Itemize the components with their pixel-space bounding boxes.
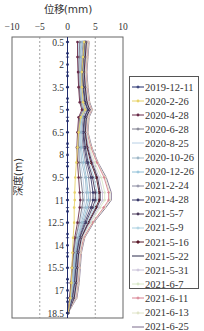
legend-label: 2019-12-11 (145, 82, 194, 93)
y-tick-label: 2 (59, 60, 64, 70)
legend-swatch-icon (132, 139, 144, 147)
legend-item: 2021-4-28 (132, 193, 198, 207)
y-tick-label: 0.5 (52, 38, 64, 48)
x-tick-label: 0 (65, 22, 70, 32)
legend-item: 2021-5-22 (132, 249, 198, 263)
legend-item: 2020-6-28 (132, 122, 198, 136)
legend-label: 2020-6-28 (145, 124, 189, 135)
legend-swatch-icon (132, 252, 144, 260)
legend-label: 2021-6-11 (145, 293, 188, 304)
legend-item: 2021-5-16 (132, 235, 198, 249)
legend-label: 2021-6-25 (145, 321, 189, 331)
legend-item: 2021-6-25 (132, 320, 198, 331)
legend-swatch-icon (132, 280, 144, 288)
y-tick-label: 18.5 (47, 309, 64, 319)
legend-label: 2020-10-26 (145, 152, 194, 163)
legend-swatch-icon (132, 168, 144, 176)
legend-swatch-icon (132, 154, 144, 162)
legend-item: 2021-2-24 (132, 179, 198, 193)
legend-swatch-icon (132, 294, 144, 302)
legend-swatch-icon (132, 309, 144, 317)
legend-swatch-icon (132, 224, 144, 232)
legend-label: 2020-12-26 (145, 166, 194, 177)
legend-swatch-icon (132, 266, 144, 274)
legend-label: 2021-5-16 (145, 237, 189, 248)
y-tick-label: 6.5 (52, 128, 64, 138)
x-axis-ticks: −10−50510 (5, 22, 128, 32)
legend-swatch-icon (132, 210, 144, 218)
y-tick-label: 15.5 (47, 263, 64, 273)
legend-label: 2021-4-28 (145, 194, 189, 205)
legend-label: 2021-6-7 (145, 279, 184, 290)
legend-swatch-icon (132, 111, 144, 119)
legend-swatch-icon (132, 323, 144, 331)
legend-item: 2020-10-26 (132, 150, 198, 164)
legend-label: 2021-5-7 (145, 208, 184, 219)
x-tick-label: −5 (35, 22, 45, 32)
legend-item: 2021-6-11 (132, 291, 198, 305)
legend-swatch-icon (132, 238, 144, 246)
x-tick-label: −10 (5, 22, 20, 32)
legend-item: 2021-5-31 (132, 263, 198, 277)
y-tick-label: 17 (55, 286, 65, 296)
y-tick-label: 11 (55, 196, 64, 206)
legend-label: 2021-5-22 (145, 251, 189, 262)
legend-item: 2020-12-26 (132, 165, 198, 179)
legend-item: 2020-2-26 (132, 94, 198, 108)
legend: 2019-12-112020-2-262020-4-282020-6-28202… (129, 76, 199, 289)
legend-item: 2020-8-25 (132, 136, 198, 150)
y-tick-label: 5 (59, 105, 64, 115)
legend-item: 2021-5-7 (132, 207, 198, 221)
legend-label: 2021-6-13 (145, 307, 189, 318)
legend-label: 2021-5-31 (145, 265, 189, 276)
legend-item: 2019-12-11 (132, 80, 198, 94)
y-tick-label: 9.5 (52, 173, 64, 183)
legend-swatch-icon (132, 196, 144, 204)
legend-label: 2020-4-28 (145, 110, 189, 121)
legend-label: 2020-8-25 (145, 138, 189, 149)
legend-item: 2021-6-7 (132, 277, 198, 291)
y-tick-label: 14 (55, 241, 65, 251)
legend-swatch-icon (132, 125, 144, 133)
legend-swatch-icon (132, 83, 144, 91)
y-tick-label: 12.5 (47, 218, 64, 228)
legend-swatch-icon (132, 97, 144, 105)
legend-label: 2020-2-26 (145, 96, 189, 107)
x-tick-label: 5 (93, 22, 98, 32)
x-axis-title: 位移(mm) (44, 3, 93, 15)
legend-item: 2020-4-28 (132, 108, 198, 122)
legend-label: 2021-5-9 (145, 222, 184, 233)
y-tick-label: 8 (59, 150, 64, 160)
y-axis-title: 深度(m) (12, 158, 24, 196)
x-tick-label: 10 (118, 22, 128, 32)
legend-item: 2021-6-13 (132, 306, 198, 320)
legend-label: 2021-2-24 (145, 180, 189, 191)
legend-swatch-icon (132, 182, 144, 190)
y-tick-label: 3.5 (52, 83, 64, 93)
legend-item: 2021-5-9 (132, 221, 198, 235)
